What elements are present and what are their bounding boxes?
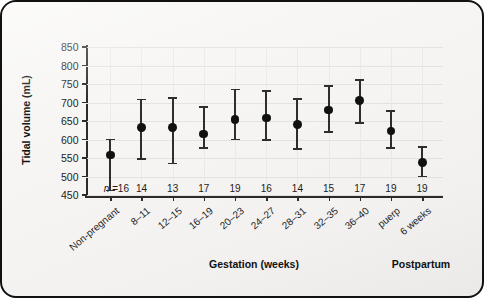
x-axis-category-label: 36–40 <box>342 205 370 231</box>
x-axis-tick-mark <box>235 196 236 201</box>
x-axis-category-label: 16–19 <box>187 205 215 231</box>
x-axis-tick-mark <box>360 196 361 201</box>
error-bar-cap-lower <box>293 148 302 150</box>
x-axis-tick-mark <box>141 196 142 201</box>
y-axis-tick-label: 550 <box>61 152 79 164</box>
y-axis-tick-mark <box>82 46 87 48</box>
sample-size-label: 14 <box>136 183 147 194</box>
x-axis-line <box>85 196 443 198</box>
error-bar-cap-upper <box>199 106 208 108</box>
y-axis-tick: 500 <box>61 171 86 183</box>
sample-size-label: 16 <box>261 183 272 194</box>
x-axis-category-label: 20–23 <box>218 205 246 231</box>
error-bar-cap-upper <box>386 110 395 112</box>
y-axis-tick: 600 <box>61 134 86 146</box>
x-axis-category-label: 28–31 <box>280 205 308 231</box>
error-bar-cap-upper <box>106 139 115 141</box>
x-axis-tick-mark <box>266 196 267 201</box>
y-axis-title: Tidal volume (mL) <box>20 75 32 165</box>
error-bar <box>203 107 205 148</box>
data-point-marker[interactable] <box>106 151 115 160</box>
error-bar-cap-upper <box>418 146 427 148</box>
plot-area: 450500550600650700750800850 <box>86 47 443 195</box>
data-point-marker[interactable] <box>199 130 208 139</box>
x-axis-category-label: Non-pregnant <box>67 205 121 253</box>
x-axis-title-postpartum: Postpartum <box>392 258 450 270</box>
error-bar-cap-upper <box>355 79 364 81</box>
y-axis-tick-mark <box>82 176 87 178</box>
x-axis-tick-mark <box>204 196 205 201</box>
y-axis-tick: 700 <box>61 97 86 109</box>
x-axis-title-gestation: Gestation (weeks) <box>209 258 299 270</box>
y-axis-tick-label: 800 <box>61 60 79 72</box>
y-axis-tick-mark <box>82 120 87 122</box>
error-bar-cap-upper <box>137 99 146 101</box>
y-axis-tick-mark <box>82 194 87 196</box>
x-axis-tick-mark <box>110 196 111 201</box>
y-axis-tick-label: 650 <box>61 115 79 127</box>
y-axis-tick-label: 500 <box>61 171 79 183</box>
gridline-horizontal <box>86 47 443 48</box>
error-bar-cap-lower <box>418 176 427 178</box>
data-point-marker[interactable] <box>387 127 396 136</box>
data-point-marker[interactable] <box>418 158 427 167</box>
x-axis-category-label: 32–35 <box>311 205 339 231</box>
data-point-marker[interactable] <box>324 106 333 115</box>
y-axis-tick-label: 600 <box>61 134 79 146</box>
error-bar-cap-lower <box>199 147 208 149</box>
sample-size-label: 19 <box>229 183 240 194</box>
x-axis-category-label: 6 weeks <box>398 205 433 237</box>
data-point-marker[interactable] <box>355 96 364 105</box>
y-axis-tick: 800 <box>61 60 86 72</box>
y-axis-tick-label: 850 <box>61 41 79 53</box>
x-axis-category-label: puerp <box>375 205 402 230</box>
x-axis-category-label: 12–15 <box>155 205 183 231</box>
y-axis-tick: 850 <box>61 41 86 53</box>
sample-size-label: 19 <box>417 183 428 194</box>
y-axis-tick: 550 <box>61 152 86 164</box>
error-bar-cap-upper <box>293 98 302 100</box>
error-bar-cap-lower <box>324 131 333 133</box>
x-axis-tick-mark <box>391 196 392 201</box>
y-axis-tick-mark <box>82 157 87 159</box>
error-bar-cap-lower <box>262 139 271 141</box>
error-bar-cap-upper <box>262 90 271 92</box>
data-point-marker[interactable] <box>137 123 146 132</box>
error-bar-cap-lower <box>168 163 177 165</box>
sample-size-label: 17 <box>354 183 365 194</box>
x-axis-tick-mark <box>173 196 174 201</box>
y-axis-tick-mark <box>82 139 87 141</box>
sample-size-label: 13 <box>167 183 178 194</box>
sample-size-label: 14 <box>292 183 303 194</box>
gridline-horizontal <box>86 195 443 196</box>
y-axis-tick-mark <box>82 83 87 85</box>
sample-size-prefix: n = <box>104 183 118 194</box>
data-point-marker[interactable] <box>231 115 240 124</box>
y-axis-tick: 750 <box>61 78 86 90</box>
y-axis-tick-label: 750 <box>61 78 79 90</box>
x-axis-tick-mark <box>329 196 330 201</box>
y-axis-tick: 650 <box>61 115 86 127</box>
x-axis-tick-mark <box>297 196 298 201</box>
gridline-horizontal <box>86 177 443 178</box>
gridline-horizontal <box>86 84 443 85</box>
data-point-marker[interactable] <box>168 123 177 132</box>
gridline-horizontal <box>86 66 443 67</box>
error-bar-cap-upper <box>324 85 333 87</box>
error-bar-cap-lower <box>231 139 240 141</box>
x-axis-tick-mark <box>422 196 423 201</box>
data-point-marker[interactable] <box>293 120 302 129</box>
error-bar-cap-lower <box>137 158 146 160</box>
sample-size-label: n =16 <box>104 183 129 194</box>
y-axis-tick-mark <box>82 65 87 67</box>
error-bar-cap-upper <box>168 97 177 99</box>
sample-size-label: 15 <box>323 183 334 194</box>
sample-size-label: 19 <box>385 183 396 194</box>
x-axis-category-label: 24–27 <box>249 205 277 231</box>
y-axis-tick-label: 700 <box>61 97 79 109</box>
error-bar-cap-upper <box>231 89 240 91</box>
data-point-marker[interactable] <box>262 114 271 123</box>
error-bar-cap-lower <box>355 122 364 124</box>
error-bar-cap-lower <box>386 147 395 149</box>
x-axis-category-label: 8–11 <box>129 205 153 227</box>
